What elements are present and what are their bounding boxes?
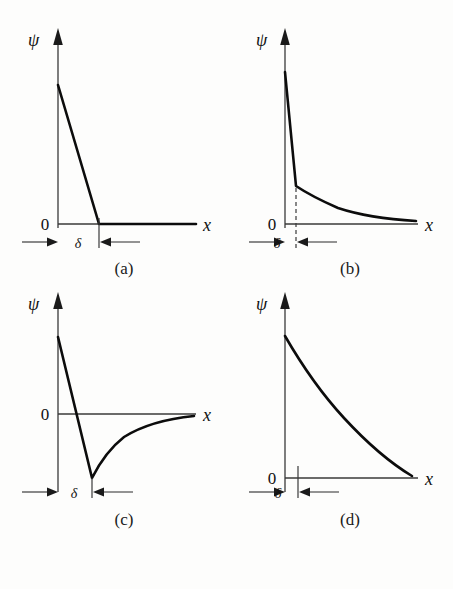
panel-d-y-axis-arrowhead bbox=[280, 292, 290, 309]
panel-c-x-axis-label: x bbox=[202, 405, 211, 425]
panel-c-dim-right-arrow bbox=[93, 488, 104, 497]
panel-b-delta-label: δ bbox=[274, 236, 281, 251]
panel-c: ψ x 0 δ (c) bbox=[22, 292, 211, 529]
panel-b-origin-label: 0 bbox=[268, 215, 277, 234]
panel-b-y-axis-label: ψ bbox=[256, 30, 268, 50]
panel-d-dim-right-arrow bbox=[299, 488, 310, 497]
panel-b: ψ x 0 δ (b) bbox=[249, 28, 433, 278]
panel-a-y-axis-arrowhead bbox=[53, 28, 63, 45]
panel-a-y-axis-label: ψ bbox=[28, 30, 40, 50]
panel-b-caption: (b) bbox=[340, 259, 360, 278]
panel-a-dim-left-arrow bbox=[47, 238, 58, 247]
panel-c-curve bbox=[58, 337, 194, 478]
panel-c-delta-label: δ bbox=[71, 486, 78, 501]
panel-d: ψ x 0 δ (d) bbox=[249, 292, 433, 529]
panel-d-caption: (d) bbox=[340, 510, 360, 529]
panel-d-curve bbox=[285, 336, 412, 476]
panel-b-y-axis-arrowhead bbox=[280, 28, 290, 45]
panel-a-curve bbox=[58, 85, 196, 224]
panel-a-x-axis-label: x bbox=[202, 215, 211, 235]
panel-a-caption: (a) bbox=[115, 259, 134, 278]
panel-d-delta-label: δ bbox=[275, 486, 282, 501]
wavefunction-figure: ψ x 0 δ (a) ψ x 0 δ (b) bbox=[0, 0, 453, 589]
panel-c-caption: (c) bbox=[115, 510, 134, 529]
panel-d-y-axis-label: ψ bbox=[256, 294, 268, 314]
panel-a: ψ x 0 δ (a) bbox=[22, 28, 211, 278]
panel-b-curve bbox=[285, 72, 416, 221]
panel-d-x-axis-label: x bbox=[424, 469, 433, 489]
panel-c-y-axis-arrowhead bbox=[53, 292, 63, 309]
panel-b-x-axis-label: x bbox=[424, 215, 433, 235]
panel-a-dim-right-arrow bbox=[100, 238, 111, 247]
panel-c-y-axis-label: ψ bbox=[28, 294, 40, 314]
panel-a-delta-label: δ bbox=[75, 236, 82, 251]
panel-c-origin-label: 0 bbox=[41, 405, 50, 424]
panel-a-origin-label: 0 bbox=[41, 215, 50, 234]
panel-c-dim-left-arrow bbox=[47, 488, 58, 497]
panel-b-dim-right-arrow bbox=[297, 238, 308, 247]
